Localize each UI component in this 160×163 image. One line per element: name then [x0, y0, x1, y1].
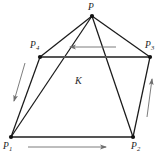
vertex-dot-P3 — [148, 55, 152, 59]
geometry-figure: P P1 P2 P3 P4 K — [0, 0, 160, 163]
vertex-label-P4: P4 — [30, 41, 39, 51]
vertex-dot-P4 — [38, 55, 42, 59]
edge-P-P3 — [92, 16, 150, 57]
vertex-dot-P1 — [9, 135, 13, 139]
caption-strip — [0, 152, 160, 163]
arrow-right — [147, 79, 152, 117]
vertex-label-P: P — [88, 3, 94, 13]
vertex-dot-P2 — [131, 135, 135, 139]
edge-P-P2 — [92, 16, 133, 137]
arrow-left — [14, 63, 25, 101]
region-label-K: K — [75, 76, 82, 86]
vertex-label-P2: P2 — [131, 142, 140, 152]
vertex-label-P1: P1 — [3, 142, 12, 152]
vertex-label-P3: P3 — [145, 41, 154, 51]
edge-P3-P2 — [133, 57, 150, 137]
vertex-dot-P — [90, 14, 94, 18]
edge-P-P4 — [40, 16, 92, 57]
